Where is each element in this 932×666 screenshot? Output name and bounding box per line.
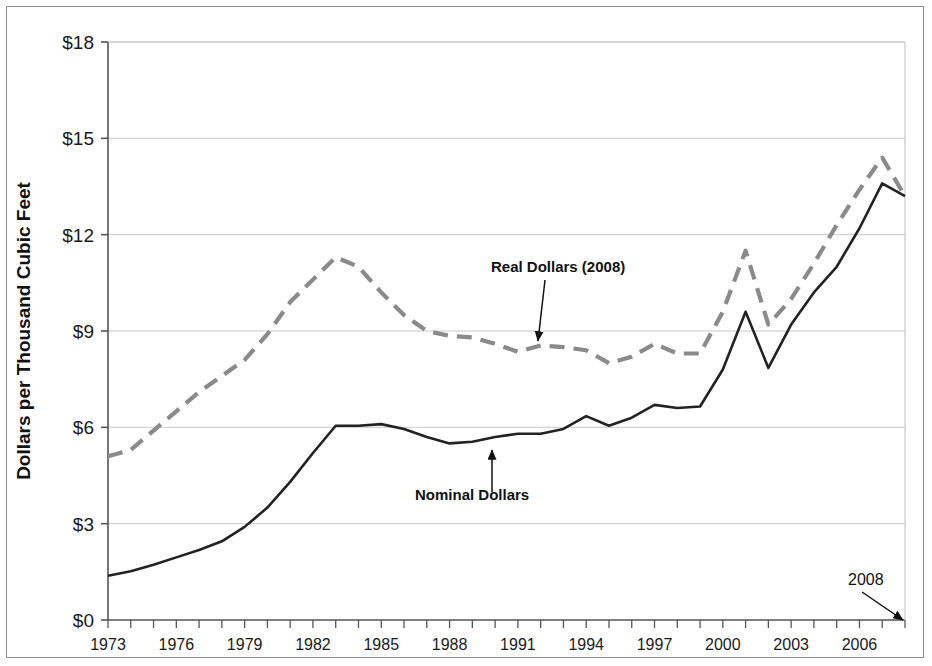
series-line-nominal-dollars: [108, 183, 905, 575]
y-axis-title: Dollars per Thousand Cubic Feet: [13, 181, 34, 479]
gridlines: [108, 42, 905, 524]
price-line-chart: $0$3$6$9$12$15$18 1973197619791982198519…: [0, 0, 932, 666]
x-tick-label-2006: 2006: [842, 636, 878, 653]
x-tick-label-2000: 2000: [705, 636, 741, 653]
annotation-label-real-dollars-2008: Real Dollars (2008): [491, 258, 625, 275]
x-tick-label-1988: 1988: [432, 636, 468, 653]
annotation-label-2008: 2008: [848, 571, 884, 588]
annotation-label-nominal-dollars: Nominal Dollars: [415, 486, 529, 503]
chart-figure: $0$3$6$9$12$15$18 1973197619791982198519…: [0, 0, 932, 666]
series-lines: [108, 158, 905, 576]
y-axis-title-text: Dollars per Thousand Cubic Feet: [13, 181, 34, 479]
x-tick-label-2003: 2003: [773, 636, 809, 653]
x-tick-label-1991: 1991: [500, 636, 536, 653]
x-axis-ticks: [108, 620, 905, 628]
y-tick-label-3: $3: [73, 514, 94, 535]
x-tick-label-1994: 1994: [568, 636, 604, 653]
x-tick-label-1976: 1976: [159, 636, 195, 653]
y-tick-label-9: $9: [73, 321, 94, 342]
y-tick-label-18: $18: [62, 32, 94, 53]
y-axis-tick-labels: $0$3$6$9$12$15$18: [62, 32, 94, 631]
x-tick-label-1982: 1982: [295, 636, 331, 653]
x-axis-tick-labels: 1973197619791982198519881991199419972000…: [90, 636, 877, 653]
x-tick-label-1973: 1973: [90, 636, 126, 653]
x-tick-label-1985: 1985: [363, 636, 399, 653]
y-tick-label-15: $15: [62, 128, 94, 149]
y-tick-label-12: $12: [62, 225, 94, 246]
x-tick-label-1979: 1979: [227, 636, 263, 653]
x-tick-label-1997: 1997: [637, 636, 673, 653]
annotation-arrow-real-dollars-2008: [538, 280, 545, 341]
y-tick-label-0: $0: [73, 610, 94, 631]
series-line-real-dollars-2008: [108, 158, 905, 457]
y-tick-label-6: $6: [73, 417, 94, 438]
annotation-arrow-2008: [862, 592, 903, 620]
